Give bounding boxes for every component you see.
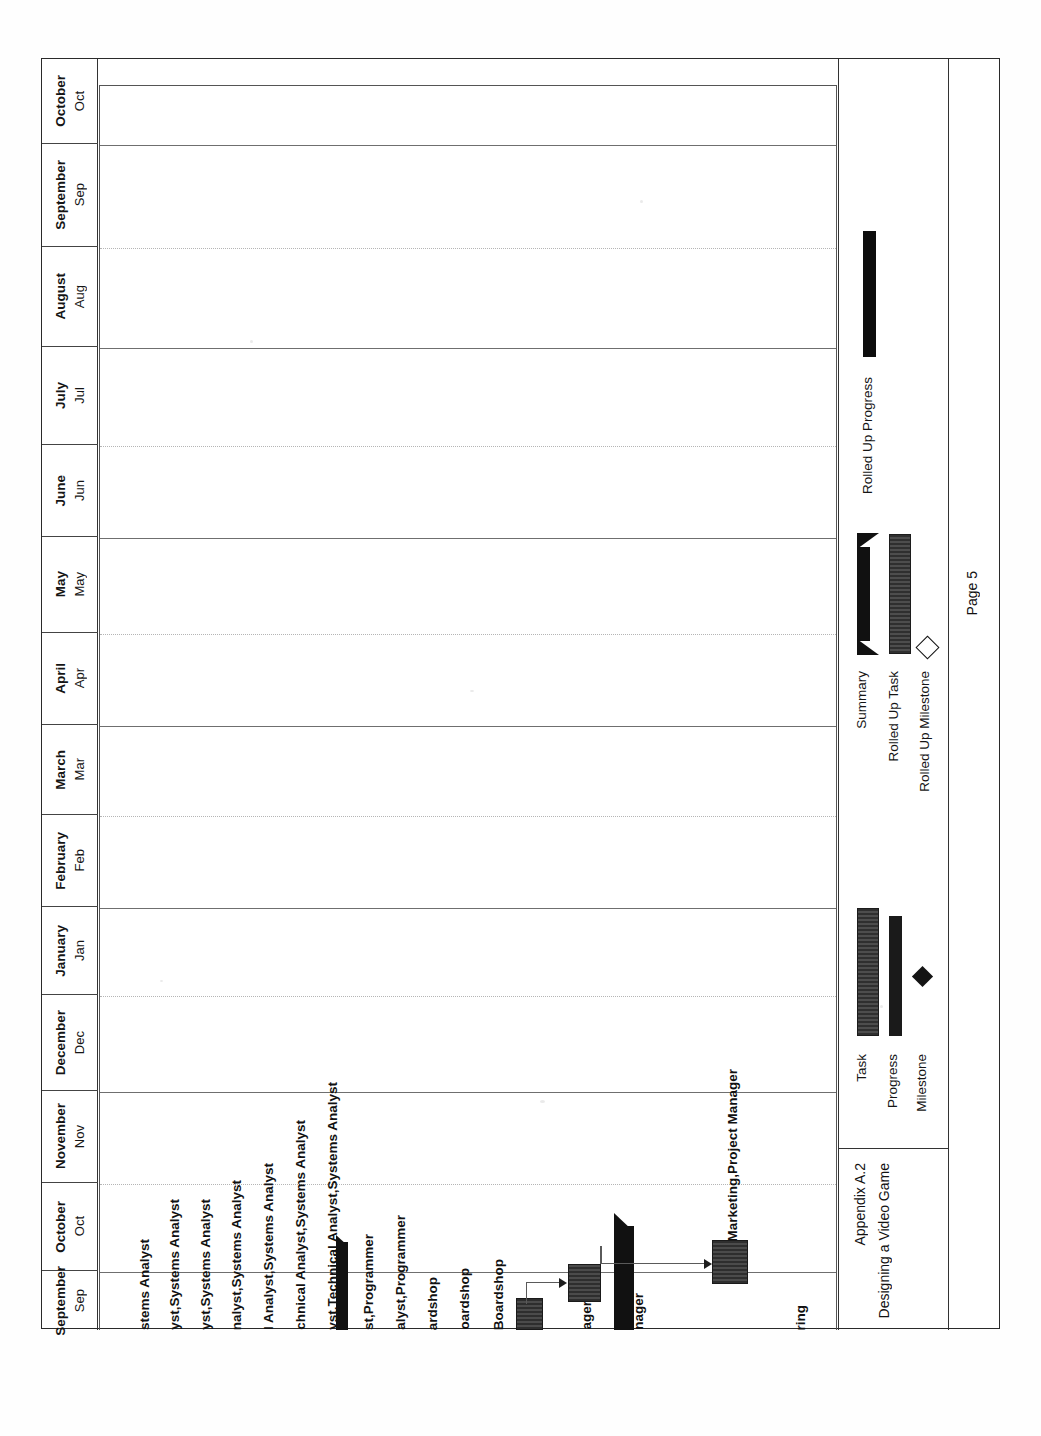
month-cell: February Feb (42, 815, 98, 907)
legend-swatch-rolled-up-progress-bar (863, 231, 876, 357)
legend-label-progress: Progress (886, 1054, 900, 1108)
task-row[interactable]: stems Analyst (138, 86, 164, 1330)
link-arrow-icon (704, 1259, 712, 1269)
month-cell: September Sep (42, 1271, 98, 1330)
month-cell: July Jul (42, 347, 98, 445)
legend-swatch-rolled-up-milestone-diamond-icon (915, 635, 939, 659)
month-long-label: November (54, 1103, 68, 1169)
link-line (600, 1246, 602, 1264)
task-row[interactable]: yst,Technical Analyst,Systems Analyst (326, 86, 356, 1330)
month-short-label: Jun (73, 480, 86, 501)
task-label: alyst,Programmer (394, 1215, 408, 1330)
task-label: oardshop (458, 1268, 472, 1330)
task-row[interactable]: ager (568, 86, 608, 1330)
legend-column-1: Task Progress Milestone (839, 899, 949, 1179)
task-row[interactable]: ring (794, 86, 820, 1330)
task-row[interactable]: Marketing,Project Manager (712, 86, 754, 1330)
summary-bar-cap (614, 1213, 633, 1231)
month-long-label: September (54, 160, 68, 230)
timescale-header: October Oct September Sep August Aug Jul… (42, 59, 98, 1330)
month-short-label: Oct (73, 91, 86, 111)
task-bar[interactable] (516, 1298, 543, 1330)
legend-swatch-progress-bar (889, 916, 902, 1036)
month-cell: May May (42, 537, 98, 633)
scanned-page: October Oct September Sep August Aug Jul… (0, 0, 1041, 1436)
task-row[interactable]: yst,Systems Analyst (199, 86, 225, 1330)
appendix-label: Appendix A.2 (853, 1163, 867, 1246)
legend-column-3: Rolled Up Progress (839, 219, 949, 499)
month-long-label: September (54, 1266, 68, 1336)
month-short-label: Aug (73, 285, 86, 308)
month-cell: January Jan (42, 907, 98, 995)
task-row[interactable]: ardshop (426, 86, 452, 1330)
legend-label-task: Task (855, 1054, 869, 1082)
month-cell: August Aug (42, 247, 98, 347)
task-row[interactable]: alyst,Programmer (394, 86, 420, 1330)
legend-label-rolled-up-milestone: Rolled Up Milestone (918, 671, 932, 792)
task-row[interactable]: l Analyst,Systems Analyst (262, 86, 288, 1330)
month-short-label: Jan (73, 940, 86, 961)
month-long-label: January (54, 925, 68, 977)
page-number-label: Page 5 (965, 571, 979, 615)
legend-swatch-task-bar (857, 908, 879, 1036)
legend-label-rolled-up-progress: Rolled Up Progress (861, 377, 875, 494)
link-line (526, 1282, 527, 1304)
link-arrow-icon (559, 1278, 567, 1288)
month-short-label: Sep (73, 183, 86, 206)
task-label: ring (794, 1305, 808, 1331)
task-label: ager (580, 1301, 594, 1330)
month-long-label: August (54, 273, 68, 320)
task-row[interactable]: yst,Systems Analyst (168, 86, 194, 1330)
month-short-label: Jul (73, 387, 86, 404)
legend-label-rolled-up-task: Rolled Up Task (887, 671, 901, 762)
month-short-label: Sep (73, 1289, 86, 1312)
task-row[interactable]: st,Programmer (362, 86, 388, 1330)
month-short-label: Dec (73, 1031, 86, 1054)
task-label: nalyst,Systems Analyst (230, 1180, 244, 1330)
task-row[interactable]: chnical Analyst,Systems Analyst (294, 86, 320, 1330)
month-cell: November Nov (42, 1091, 98, 1183)
task-label: Marketing,Project Manager (726, 1069, 740, 1242)
month-cell: April Apr (42, 633, 98, 725)
month-short-label: Nov (73, 1125, 86, 1148)
title-block: Appendix A.2 Designing a Video Game (839, 1148, 949, 1330)
month-cell: October Oct (42, 1183, 98, 1271)
printed-sheet-frame: October Oct September Sep August Aug Jul… (41, 58, 1000, 1329)
month-short-label: May (73, 572, 86, 597)
month-long-label: December (54, 1010, 68, 1075)
task-bar[interactable] (568, 1264, 601, 1302)
legend-swatch-milestone-diamond-icon (912, 966, 933, 987)
month-short-label: Feb (73, 849, 86, 871)
summary-bar[interactable] (614, 1226, 634, 1330)
task-row[interactable]: oardshop (458, 86, 484, 1330)
legend-column-2: Summary Rolled Up Task Rolled Up Milesto… (839, 521, 949, 821)
task-label: yst,Systems Analyst (168, 1199, 182, 1330)
month-cell: June Jun (42, 445, 98, 537)
month-long-label: June (54, 475, 68, 507)
month-long-label: May (54, 571, 68, 597)
task-bar[interactable] (712, 1240, 748, 1284)
task-row[interactable]: nalyst,Systems Analyst (230, 86, 256, 1330)
month-short-label: Oct (73, 1216, 86, 1236)
month-long-label: March (54, 750, 68, 790)
summary-bar[interactable] (336, 1242, 348, 1330)
page-number-block: Page 5 (948, 59, 1000, 1330)
month-cell: October Oct (42, 59, 98, 144)
task-label: stems Analyst (138, 1239, 152, 1330)
legend-label-summary: Summary (855, 671, 869, 729)
project-title: Designing a Video Game (877, 1163, 891, 1318)
task-label: l Analyst,Systems Analyst (262, 1163, 276, 1330)
gantt-plot-area: stems Analyst yst,Systems Analyst yst,Sy… (99, 85, 837, 1330)
task-row[interactable]: Boardshop (492, 86, 526, 1330)
month-long-label: February (54, 832, 68, 890)
task-label: yst,Systems Analyst (199, 1199, 213, 1330)
task-row[interactable]: nager (614, 86, 654, 1330)
link-line (600, 1263, 706, 1265)
month-cell: March Mar (42, 725, 98, 815)
month-short-label: Apr (73, 668, 86, 688)
month-long-label: April (54, 663, 68, 694)
task-label: nager (632, 1293, 646, 1330)
task-label: st,Programmer (362, 1234, 376, 1330)
task-label: Boardshop (492, 1259, 506, 1330)
month-cell: September Sep (42, 144, 98, 247)
